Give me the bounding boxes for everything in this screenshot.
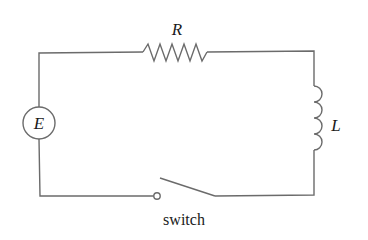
inductor-label: L xyxy=(330,116,340,135)
label-layer: R E L switch xyxy=(0,0,368,240)
rl-circuit-diagram: R E L switch xyxy=(0,0,368,240)
source-label: E xyxy=(33,114,45,133)
resistor-label: R xyxy=(171,20,183,39)
switch-label: switch xyxy=(163,211,205,228)
